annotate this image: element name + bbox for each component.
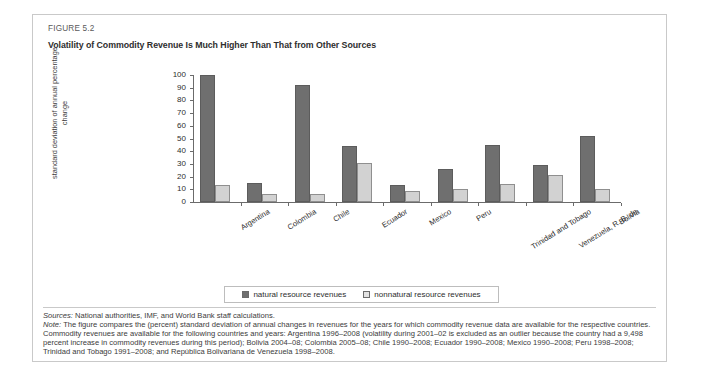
bar-nonnatural [548, 175, 563, 202]
y-axis-title: standard deviation of annual percentage … [50, 46, 70, 181]
y-tick-label: 40 [164, 146, 186, 155]
y-tick-label: 80 [164, 95, 186, 104]
x-tick-mark [573, 203, 574, 206]
y-tick-label: 20 [164, 172, 186, 181]
legend-swatch-nonnatural-icon [363, 291, 370, 298]
bar-natural [438, 169, 453, 202]
bar-nonnatural [405, 191, 420, 202]
bar-nonnatural [500, 184, 515, 202]
y-tick-label: 90 [164, 83, 186, 92]
sources-text: National authorities, IMF, and World Ban… [73, 311, 275, 320]
x-tick-mark [241, 203, 242, 206]
y-tick-label: 0 [164, 197, 186, 206]
sources-lead: Sources: [43, 311, 73, 320]
x-tick-mark [288, 203, 289, 206]
legend-swatch-natural-icon [242, 291, 249, 298]
figure-footnotes: Sources: National authorities, IMF, and … [43, 311, 658, 356]
y-tick-label: 50 [164, 134, 186, 143]
x-tick-mark [621, 203, 622, 206]
sources-line: Sources: National authorities, IMF, and … [43, 311, 658, 320]
bar-nonnatural [357, 163, 372, 202]
bar-natural [295, 85, 310, 202]
bar-nonnatural [595, 189, 610, 202]
note-line: Note: The figure compares the (percent) … [43, 320, 658, 356]
legend-entry-nonnatural: nonnatural resource revenues [363, 290, 480, 299]
bar-nonnatural [453, 189, 468, 202]
figure-container: FIGURE 5.2 Volatility of Commodity Reven… [32, 14, 667, 362]
x-axis-label-peru: Peru [474, 207, 492, 223]
bar-natural [200, 75, 215, 202]
y-tick-label: 60 [164, 121, 186, 130]
x-axis-label-colombia: Colombia [286, 207, 318, 232]
bar-natural [390, 185, 405, 202]
x-axis-label-argentina: Argentina [239, 207, 271, 232]
bar-natural [247, 183, 262, 202]
bar-nonnatural [262, 194, 277, 202]
x-axis-label-ecuador: Ecuador [381, 207, 410, 230]
chart-legend: natural resource revenues nonnatural res… [224, 286, 499, 303]
bar-nonnatural [215, 185, 230, 202]
x-tick-mark [526, 203, 527, 206]
x-tick-mark [431, 203, 432, 206]
note-lead: Note: [43, 320, 61, 329]
chart-plot-area: standard deviation of annual percentage … [33, 15, 668, 265]
y-axis-line [193, 75, 194, 203]
x-axis-label-mexico: Mexico [428, 207, 453, 227]
bar-nonnatural [310, 194, 325, 202]
bar-natural [485, 145, 500, 202]
y-tick-label: 70 [164, 108, 186, 117]
x-axis-line [193, 202, 621, 203]
bar-natural [342, 146, 357, 202]
y-tick-label: 30 [164, 159, 186, 168]
legend-label-nonnatural: nonnatural resource revenues [374, 290, 480, 299]
legend-entry-natural: natural resource revenues [242, 290, 346, 299]
bar-natural [533, 165, 548, 202]
bar-natural [580, 136, 595, 202]
y-tick-label: 100 [164, 70, 186, 79]
footer-divider [43, 307, 656, 308]
note-text: The figure compares the (percent) standa… [43, 320, 650, 356]
x-tick-mark [336, 203, 337, 206]
x-axis-label-bolivia: Bolivia [618, 207, 642, 226]
legend-label-natural: natural resource revenues [253, 290, 346, 299]
x-axis-label-chile: Chile [332, 207, 351, 224]
x-tick-mark [383, 203, 384, 206]
y-tick-label: 10 [164, 184, 186, 193]
x-tick-mark [478, 203, 479, 206]
